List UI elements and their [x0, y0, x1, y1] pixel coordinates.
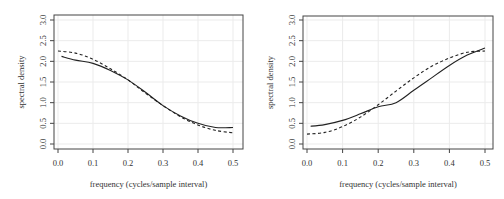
y-tick-label: 1.0 [287, 97, 297, 108]
right-spectral-density-chart: 0.00.10.20.30.40.5frequency (cycles/samp… [252, 0, 504, 199]
x-tick-label: 0.3 [408, 158, 419, 168]
x-tick-label: 0.0 [302, 158, 313, 168]
y-tick-label: 2.0 [38, 56, 48, 67]
left-chart-panel: 0.00.10.20.30.40.5frequency (cycles/samp… [0, 0, 252, 199]
x-tick-label: 0.3 [158, 158, 169, 168]
solid-series-line [62, 56, 234, 127]
x-axis: 0.00.10.20.30.40.5 [53, 149, 239, 168]
y-tick-label: 2.0 [287, 56, 297, 67]
grid-lines [54, 15, 243, 149]
dashed-series-line [307, 51, 485, 134]
y-axis-label: spectral density [16, 55, 26, 109]
x-tick-label: 0.2 [373, 158, 384, 168]
y-tick-label: 0.5 [287, 118, 297, 129]
x-tick-label: 0.1 [88, 158, 99, 168]
x-axis-label: frequency (cycles/sample interval) [90, 179, 208, 189]
y-tick-label: 0.0 [38, 139, 48, 150]
x-tick-label: 0.2 [123, 158, 134, 168]
y-tick-label: 2.5 [287, 35, 297, 46]
solid-series-line [311, 48, 485, 126]
y-axis-label: spectral density [265, 55, 275, 109]
x-tick-label: 0.1 [337, 158, 348, 168]
y-tick-label: 0.5 [38, 118, 48, 129]
right-chart-panel: 0.00.10.20.30.40.5frequency (cycles/samp… [252, 0, 504, 199]
x-tick-label: 0.5 [228, 158, 239, 168]
y-tick-label: 1.5 [287, 77, 297, 88]
x-axis-label: frequency (cycles/sample interval) [339, 179, 457, 189]
left-spectral-density-chart: 0.00.10.20.30.40.5frequency (cycles/samp… [0, 0, 252, 199]
y-axis: 0.00.51.01.52.02.53.0 [287, 15, 303, 150]
y-tick-label: 3.0 [38, 15, 48, 26]
x-tick-label: 0.0 [53, 158, 64, 168]
x-tick-label: 0.4 [444, 158, 455, 168]
y-tick-label: 1.0 [38, 97, 48, 108]
y-tick-label: 0.0 [287, 139, 297, 150]
y-tick-label: 2.5 [38, 35, 48, 46]
x-axis: 0.00.10.20.30.40.5 [302, 149, 491, 168]
x-tick-label: 0.4 [193, 158, 204, 168]
y-tick-label: 3.0 [287, 15, 297, 26]
grid-lines [303, 16, 493, 149]
y-axis: 0.00.51.01.52.02.53.0 [38, 15, 54, 150]
y-tick-label: 1.5 [38, 77, 48, 88]
x-tick-label: 0.5 [480, 158, 491, 168]
